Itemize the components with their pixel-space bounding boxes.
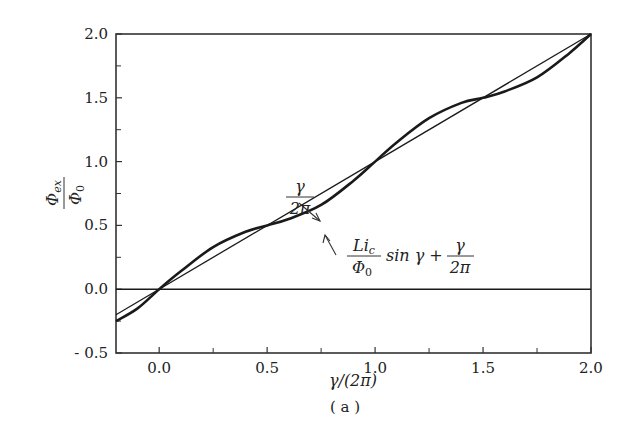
x-tick-label: 0.0 xyxy=(147,359,171,377)
y-tick-label: 0.5 xyxy=(84,216,108,234)
axis-tick-labels: 0.00.51.01.52.0- 0.50.00.51.01.52.0 xyxy=(74,25,603,377)
axis-ticks xyxy=(116,34,591,353)
annot2-sin-term: sin γ + xyxy=(386,246,443,265)
y-tick-label: 2.0 xyxy=(84,25,108,43)
wavy-curve-series xyxy=(116,34,591,321)
annot2-denominator: Φ xyxy=(352,258,365,277)
svg-text:Lic: Lic xyxy=(352,236,375,257)
svg-text:Φex: Φex xyxy=(43,179,64,206)
annot2-frac-denominator: 2π xyxy=(449,258,471,277)
y-tick-label: 1.0 xyxy=(84,153,108,171)
annot2-frac-numerator: γ xyxy=(455,236,465,255)
y-tick-label: - 0.5 xyxy=(74,344,108,362)
annot1-denominator: 2π xyxy=(289,199,311,218)
x-axis-label: γ/(2π) xyxy=(329,371,377,390)
y-axis-label: Φex Φ0 xyxy=(43,177,87,209)
arrow-wavy-curve xyxy=(325,235,336,255)
x-tick-label: 1.5 xyxy=(471,359,495,377)
annot1-numerator: γ xyxy=(295,177,305,196)
svg-text:Φ0: Φ0 xyxy=(352,258,372,279)
y-tick-label: 0.0 xyxy=(84,280,108,298)
plot-frame xyxy=(116,34,591,353)
svg-text:Φ0: Φ0 xyxy=(66,185,87,205)
x-tick-label: 2.0 xyxy=(579,359,603,377)
data-series xyxy=(116,34,591,321)
annotation-wavy-formula: Lic Φ0 sin γ + γ 2π xyxy=(347,236,474,279)
annotation-gamma-over-2pi: γ 2π xyxy=(286,177,314,218)
x-tick-label: 0.5 xyxy=(255,359,279,377)
figure-caption: ( a ) xyxy=(330,398,360,416)
annot2-numerator: Li xyxy=(352,236,369,255)
chart: 0.00.51.01.52.0- 0.50.00.51.01.52.0 γ 2π… xyxy=(0,0,638,448)
y-tick-label: 1.5 xyxy=(84,89,108,107)
